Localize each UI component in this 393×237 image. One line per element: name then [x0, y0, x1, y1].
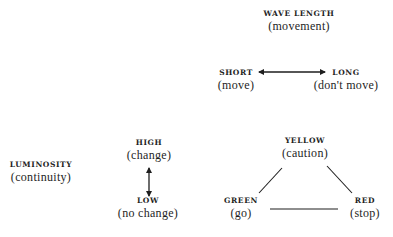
- wavelength-meaning: (movement): [264, 19, 335, 33]
- low-meaning: (no change): [118, 206, 178, 220]
- long-node: LONG (don't move): [314, 68, 379, 92]
- yellow-node: YELLOW (caution): [282, 136, 328, 160]
- long-label: LONG: [314, 68, 379, 78]
- short-label: SHORT: [218, 68, 254, 78]
- long-meaning: (don't move): [314, 78, 379, 92]
- short-node: SHORT (move): [218, 68, 254, 92]
- short-meaning: (move): [218, 78, 254, 92]
- wavelength-label: WAVE LENGTH: [264, 9, 335, 19]
- low-label: LOW: [118, 196, 178, 206]
- red-meaning: (stop): [350, 206, 380, 220]
- red-label: RED: [350, 196, 380, 206]
- high-meaning: (change): [127, 148, 171, 162]
- green-node: GREEN (go): [224, 196, 258, 220]
- luminosity-node: LUMINOSITY (continuity): [10, 160, 72, 184]
- luminosity-meaning: (continuity): [10, 170, 72, 184]
- connector-lines: [0, 0, 393, 237]
- green-label: GREEN: [224, 196, 258, 206]
- yellow-red-line: [327, 166, 352, 193]
- green-meaning: (go): [224, 206, 258, 220]
- yellow-label: YELLOW: [282, 136, 328, 146]
- luminosity-label: LUMINOSITY: [10, 160, 72, 170]
- red-node: RED (stop): [350, 196, 380, 220]
- low-node: LOW (no change): [118, 196, 178, 220]
- wavelength-node: WAVE LENGTH (movement): [264, 9, 335, 33]
- yellow-meaning: (caution): [282, 146, 328, 160]
- high-label: HIGH: [127, 138, 171, 148]
- high-node: HIGH (change): [127, 138, 171, 162]
- yellow-green-line: [259, 168, 282, 193]
